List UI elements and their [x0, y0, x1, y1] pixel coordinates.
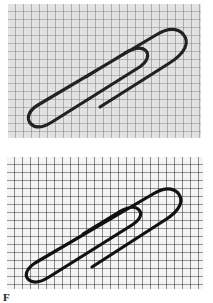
- paperclip-photo-blurred: [8, 4, 201, 138]
- grid-paper: [8, 4, 201, 138]
- figure-panel-bottom: [7, 157, 203, 289]
- figure-caption: F: [3, 291, 213, 303]
- figure-panel-top: [8, 4, 201, 138]
- paperclip-photo-sharp: [7, 157, 203, 289]
